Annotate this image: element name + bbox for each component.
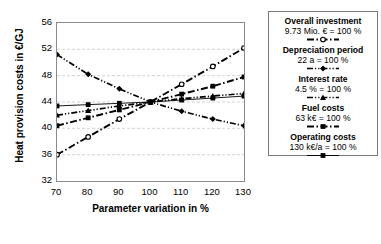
y-axis-tick-label: 36 (30, 149, 52, 158)
legend-entry[interactable]: Overall investment9.73 Mio. € = 100 % (271, 16, 375, 43)
legend-entry-value: 4.5 % = 100 % (271, 84, 375, 94)
x-axis-tick-label: 90 (105, 187, 131, 197)
series-depreciation-period (57, 52, 244, 129)
data-point-marker (179, 82, 184, 87)
data-point-marker (117, 101, 122, 106)
x-axis-tick-label: 70 (43, 187, 69, 197)
data-point-marker (321, 37, 326, 42)
y-axis-tick-labels: 32364044485256 (28, 0, 52, 244)
data-point-marker (86, 115, 91, 120)
data-point-marker (86, 102, 91, 107)
data-point-marker (179, 108, 185, 114)
data-point-marker (57, 123, 59, 128)
legend-line-sample (306, 94, 340, 101)
y-axis-tick-label: 40 (30, 122, 52, 131)
data-point-marker (210, 84, 215, 89)
legend-entry-title: Operating costs (271, 132, 375, 142)
x-axis-title: Parameter variation in % (56, 203, 245, 214)
legend-entry[interactable]: Depreciation period22 a = 100 % (271, 45, 375, 72)
y-axis-tick-label: 32 (30, 175, 52, 184)
y-axis-tick-label: 44 (30, 96, 52, 105)
chart-root: Heat provision costs in €/GJ 32364044485… (0, 0, 381, 244)
data-point-marker (179, 98, 184, 103)
data-point-marker (117, 108, 122, 113)
data-point-marker (321, 124, 326, 129)
legend-entry[interactable]: Fuel costs63 k€ = 100 % (271, 103, 375, 130)
legend-entry-title: Interest rate (271, 74, 375, 84)
legend-entry-value: 9.73 Mio. € = 100 % (271, 26, 375, 36)
data-point-marker (117, 117, 122, 122)
legend-line-sample (306, 65, 340, 72)
plot-area (56, 22, 245, 182)
x-axis-tick-label: 80 (74, 187, 100, 197)
data-point-marker (242, 94, 244, 99)
legend-entry-value: 63 k€ = 100 % (271, 113, 375, 123)
data-point-marker (57, 104, 59, 109)
legend-entry[interactable]: Operating costs130 k€/a = 100 % (271, 132, 375, 159)
x-axis-tick-label: 100 (137, 187, 163, 197)
data-point-marker (86, 135, 91, 140)
data-point-marker (210, 96, 215, 101)
data-point-marker (242, 75, 244, 80)
data-point-marker (320, 66, 326, 72)
legend-entry-value: 22 a = 100 % (271, 55, 375, 65)
y-axis-title: Heat provision costs in €/GJ (14, 11, 25, 181)
y-axis-title-holder: Heat provision costs in €/GJ (0, 0, 20, 244)
legend-line-sample (306, 36, 340, 43)
data-point-marker (210, 116, 216, 122)
legend-entry[interactable]: Interest rate4.5 % = 100 % (271, 74, 375, 101)
y-axis-tick-label: 56 (30, 17, 52, 26)
y-axis-tick-label: 52 (30, 43, 52, 52)
legend-line-sample (306, 123, 340, 130)
data-point-marker (242, 46, 244, 51)
x-axis-tick-label: 110 (168, 187, 194, 197)
data-point-marker (211, 64, 216, 69)
plot-svg (57, 23, 244, 181)
data-point-marker (241, 123, 244, 129)
legend-line-sample (306, 152, 340, 159)
legend: Overall investment9.73 Mio. € = 100 %Dep… (268, 11, 378, 156)
legend-entry-value: 130 k€/a = 100 % (271, 142, 375, 152)
legend-entry-title: Overall investment (271, 16, 375, 26)
data-point-marker (116, 86, 122, 92)
x-axis-tick-label: 130 (230, 187, 256, 197)
x-axis-tick-label: 120 (199, 187, 225, 197)
legend-entry-title: Depreciation period (271, 45, 375, 55)
data-point-marker (179, 92, 184, 97)
legend-entry-title: Fuel costs (271, 103, 375, 113)
data-point-marker (57, 152, 59, 157)
data-point-marker (148, 100, 153, 105)
data-point-marker (321, 153, 326, 158)
y-axis-tick-label: 48 (30, 70, 52, 79)
